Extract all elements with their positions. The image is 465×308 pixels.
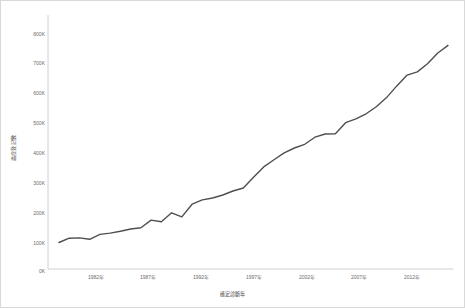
x-axis-title: 確定診斷年 xyxy=(1,290,464,297)
data-series-line xyxy=(59,45,448,242)
chart-screenshot: 癌症登記數 800K 700K 600K 500K 400K 300K 200K… xyxy=(0,0,465,308)
plot-svg xyxy=(1,1,464,307)
line-chart: 癌症登記數 800K 700K 600K 500K 400K 300K 200K… xyxy=(1,1,464,307)
